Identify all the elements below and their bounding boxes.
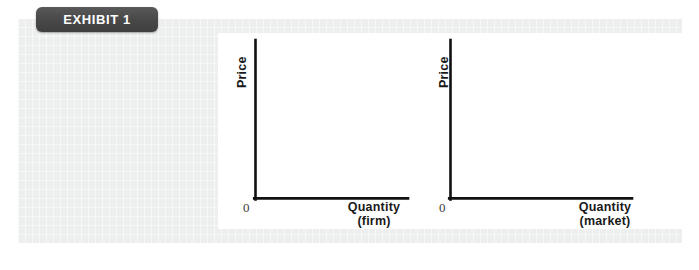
exhibit-figure: EXHIBIT 1 Price 0 Quantity (firm) Price … (0, 0, 699, 270)
chart-market-axes (432, 33, 682, 229)
x-axis-label-scope: (market) (562, 215, 648, 229)
y-axis-label-price: Price (437, 56, 451, 88)
chart-quantity-firm: Price 0 Quantity (firm) (218, 33, 432, 229)
x-axis-label-group: Quantity (market) (562, 201, 648, 228)
x-axis-label-group: Quantity (firm) (336, 201, 412, 228)
x-axis-label-scope: (firm) (336, 215, 412, 229)
x-axis-label-quantity: Quantity (579, 200, 631, 214)
exhibit-tab: EXHIBIT 1 (36, 7, 158, 32)
chart-quantity-market: Price 0 Quantity (market) (432, 33, 682, 229)
origin-label-zero: 0 (439, 201, 446, 214)
origin-label-zero: 0 (243, 201, 250, 214)
y-axis-label-price: Price (235, 56, 249, 88)
exhibit-tab-label: EXHIBIT 1 (63, 12, 131, 27)
x-axis-label-quantity: Quantity (348, 200, 400, 214)
